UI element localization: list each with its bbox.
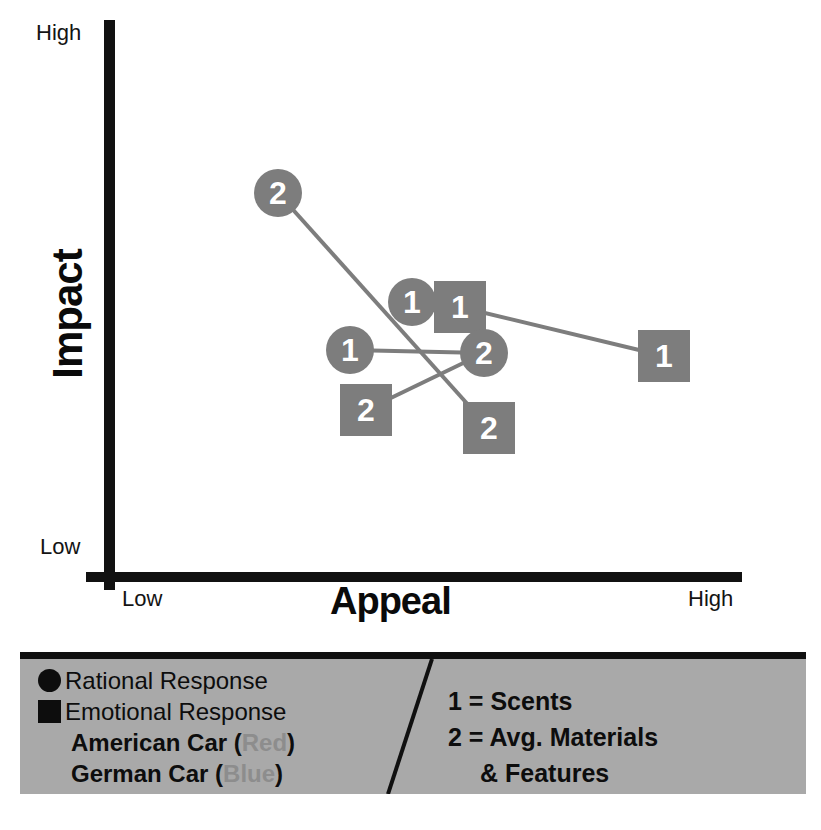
data-point-square-2[interactable]	[340, 384, 392, 436]
legend-entry-label: Rational Response	[65, 667, 268, 695]
legend-panel: Rational ResponseEmotional ResponseAmeri…	[20, 652, 806, 794]
legend-entry-label: American Car (	[71, 729, 242, 757]
legend-right-column: 1 = Scents2 = Avg. Materials& Features	[448, 683, 788, 791]
data-point-circle-2[interactable]	[460, 329, 508, 377]
data-point-square-1[interactable]	[638, 330, 690, 382]
legend-entry-label-tail: )	[275, 760, 283, 788]
legend-entry-0: Rational Response	[38, 665, 408, 696]
data-point-circle-2[interactable]	[254, 169, 302, 217]
emotional-response-square-icon	[38, 700, 61, 723]
legend-entry-1: Emotional Response	[38, 696, 408, 727]
chart-canvas: High Low Low High Impact Appeal 11221122…	[0, 0, 821, 830]
legend-entry-color-word: Blue	[223, 760, 275, 788]
legend-entry-label: German Car (	[71, 760, 223, 788]
legend-entry-color-word: Red	[242, 729, 287, 757]
legend-key-2: & Features	[448, 755, 788, 791]
legend-left-column: Rational ResponseEmotional ResponseAmeri…	[38, 665, 408, 789]
legend-key-1: 2 = Avg. Materials	[448, 719, 788, 755]
rational-response-circle-icon	[38, 669, 61, 692]
legend-entry-label-tail: )	[287, 729, 295, 757]
legend-entry-2: American Car (Red)	[38, 727, 408, 758]
data-point-square-2[interactable]	[463, 402, 515, 454]
data-point-circle-1[interactable]	[326, 326, 374, 374]
legend-key-0: 1 = Scents	[448, 683, 788, 719]
legend-entry-label: Emotional Response	[65, 698, 286, 726]
data-point-square-1[interactable]	[434, 281, 486, 333]
legend-entry-3: German Car (Blue)	[38, 758, 408, 789]
data-point-circle-1[interactable]	[388, 278, 436, 326]
